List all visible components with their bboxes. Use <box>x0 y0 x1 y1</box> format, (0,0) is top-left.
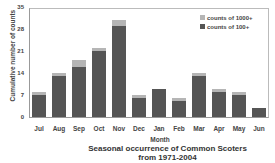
bar-oct <box>92 48 106 117</box>
bar-segment-100 <box>32 95 46 117</box>
bar-segment-100 <box>112 26 126 117</box>
x-tick: Sep <box>69 125 89 132</box>
bar-segment-100 <box>52 76 66 117</box>
y-tick: 14 <box>8 70 24 76</box>
bar-may <box>232 92 246 117</box>
bar-jan <box>152 89 166 117</box>
bar-segment-1000 <box>32 92 46 95</box>
bar-nov <box>112 20 126 117</box>
bar-segment-1000 <box>232 92 246 95</box>
x-tick: Aug <box>49 125 69 132</box>
bar-segment-1000 <box>212 89 226 92</box>
legend-swatch-dark <box>200 24 205 29</box>
x-tick: Mar <box>189 125 209 132</box>
legend-label: counts of 1000+ <box>207 15 253 21</box>
bar-segment-1000 <box>92 48 106 51</box>
x-tick: Jul <box>29 125 49 132</box>
bar-apr <box>212 89 226 117</box>
chart-title-line-2: from 1971-2004 <box>60 153 275 162</box>
y-tick: 0 <box>8 114 24 120</box>
bar-jun <box>252 108 266 117</box>
bar-segment-100 <box>72 67 86 117</box>
legend-item-1000: counts of 1000+ <box>200 13 253 22</box>
bar-segment-100 <box>152 89 166 117</box>
bar-segment-100 <box>212 92 226 117</box>
x-tick: Apr <box>209 125 229 132</box>
x-tick: Dec <box>129 125 149 132</box>
chart-title-line-1: Seasonal occurrence of Common Scoters <box>60 144 275 153</box>
bar-aug <box>52 73 66 117</box>
x-tick: Nov <box>109 125 129 132</box>
y-tick: 21 <box>8 48 24 54</box>
bar-segment-1000 <box>172 98 186 101</box>
bar-dec <box>132 95 146 117</box>
bar-sep <box>72 60 86 117</box>
bar-segment-1000 <box>112 20 126 26</box>
bar-segment-100 <box>232 95 246 117</box>
legend: counts of 1000+ counts of 100+ <box>200 13 253 31</box>
bar-segment-1000 <box>192 73 206 76</box>
bar-segment-100 <box>92 51 106 117</box>
y-tick: 28 <box>8 26 24 32</box>
x-tick: May <box>229 125 249 132</box>
bar-segment-100 <box>172 101 186 117</box>
bar-segment-100 <box>252 108 266 117</box>
bar-segment-100 <box>132 98 146 117</box>
bar-segment-1000 <box>72 60 86 66</box>
x-tick: Feb <box>169 125 189 132</box>
legend-item-100: counts of 100+ <box>200 22 253 31</box>
x-tick: Jun <box>249 125 269 132</box>
y-tick: 7 <box>8 92 24 98</box>
x-tick: Jan <box>149 125 169 132</box>
x-axis-label: Month <box>130 136 190 143</box>
x-tick: Oct <box>89 125 109 132</box>
bar-segment-1000 <box>132 95 146 98</box>
y-axis-label: Cumulative number of counts <box>9 22 16 102</box>
bar-feb <box>172 98 186 117</box>
legend-swatch-light <box>200 15 205 20</box>
bar-segment-1000 <box>52 73 66 76</box>
y-tick: 35 <box>8 4 24 10</box>
legend-label: counts of 100+ <box>207 24 249 30</box>
bar-jul <box>32 92 46 117</box>
bar-segment-100 <box>192 76 206 117</box>
bar-mar <box>192 73 206 117</box>
